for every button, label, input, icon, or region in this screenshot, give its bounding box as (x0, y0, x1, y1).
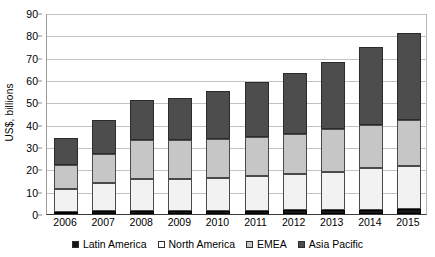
chart-legend: Latin AmericaNorth AmericaEMEAAsia Pacif… (0, 238, 435, 250)
y-tick-label-90: 90 (26, 9, 38, 20)
bar-segment-2007-emea (92, 154, 116, 183)
legend-label-asia: Asia Pacific (309, 238, 363, 250)
y-tick-mark-80 (38, 36, 42, 37)
bar-segment-2012-latin (283, 210, 307, 214)
bar-segment-2015-emea (397, 120, 421, 166)
bar-segment-2011-latin (245, 211, 269, 214)
bar-segment-2010-emea (206, 139, 230, 178)
y-tick-label-20: 20 (26, 165, 38, 176)
stacked-bar-chart: US$, billions 0102030405060708090 200620… (0, 0, 435, 257)
x-tick-label-2012: 2012 (282, 217, 305, 228)
legend-swatch-emea-icon (246, 241, 253, 248)
legend-swatch-asia-icon (298, 241, 305, 248)
bar-segment-2008-asia (130, 100, 154, 140)
bar-segment-2014-asia (359, 47, 383, 125)
y-tick-mark-10 (38, 192, 42, 193)
legend-item-latin[interactable]: Latin America (72, 238, 147, 250)
bar-segment-2007-asia (92, 120, 116, 154)
bar-segment-2012-emea (283, 134, 307, 174)
bar-segment-2008-latin (130, 211, 154, 214)
bar-group-2014 (359, 13, 383, 214)
legend-swatch-north-icon (158, 241, 165, 248)
bar-segment-2009-asia (168, 98, 192, 140)
bar-segment-2011-north (245, 176, 269, 211)
bar-group-2007 (92, 13, 116, 214)
bar-segment-2010-asia (206, 91, 230, 139)
bar-segment-2013-north (321, 172, 345, 211)
y-tick-mark-70 (38, 58, 42, 59)
legend-item-emea[interactable]: EMEA (246, 238, 287, 250)
y-tick-mark-50 (38, 103, 42, 104)
bar-group-2012 (283, 13, 307, 214)
x-tick-label-2009: 2009 (168, 217, 191, 228)
bar-segment-2006-latin (54, 212, 78, 214)
bar-segment-2012-north (283, 174, 307, 211)
y-tick-label-80: 80 (26, 31, 38, 42)
x-axis-tick-labels: 2006200720082009201020112012201320142015 (46, 217, 427, 233)
bar-segment-2013-asia (321, 62, 345, 129)
y-tick-mark-20 (38, 170, 42, 171)
x-tick-label-2008: 2008 (130, 217, 153, 228)
y-tick-label-30: 30 (26, 143, 38, 154)
bar-group-2013 (321, 13, 345, 214)
bar-segment-2009-emea (168, 140, 192, 179)
bar-segment-2009-latin (168, 211, 192, 214)
y-tick-mark-30 (38, 148, 42, 149)
legend-item-north[interactable]: North America (158, 238, 236, 250)
bar-group-2011 (245, 13, 269, 214)
legend-label-north: North America (169, 238, 236, 250)
y-tick-mark-90 (38, 14, 42, 15)
y-axis-title: US$, billions (0, 0, 18, 225)
bar-segment-2013-latin (321, 210, 345, 214)
y-tick-label-50: 50 (26, 98, 38, 109)
bar-segment-2011-asia (245, 82, 269, 137)
bar-segment-2012-asia (283, 73, 307, 133)
bar-group-2008 (130, 13, 154, 214)
plot-area (46, 14, 427, 215)
legend-item-asia[interactable]: Asia Pacific (298, 238, 363, 250)
legend-swatch-latin-icon (72, 241, 79, 248)
bar-segment-2013-emea (321, 129, 345, 171)
y-tick-mark-0 (38, 215, 42, 216)
bar-segment-2006-north (54, 189, 78, 211)
y-axis-tick-labels: 0102030405060708090 (18, 14, 42, 215)
bar-series-container (47, 15, 426, 214)
bar-segment-2014-emea (359, 125, 383, 169)
bar-segment-2006-emea (54, 165, 78, 190)
bar-segment-2010-latin (206, 211, 230, 214)
bar-segment-2014-north (359, 168, 383, 210)
x-tick-label-2006: 2006 (53, 217, 76, 228)
bar-group-2015 (397, 13, 421, 214)
bar-segment-2015-north (397, 166, 421, 209)
bar-segment-2008-emea (130, 140, 154, 179)
bar-segment-2007-latin (92, 211, 116, 214)
bar-segment-2008-north (130, 179, 154, 211)
bar-segment-2011-emea (245, 137, 269, 176)
x-tick-label-2011: 2011 (244, 217, 267, 228)
legend-label-emea: EMEA (257, 238, 287, 250)
bar-group-2006 (54, 13, 78, 214)
bar-segment-2014-latin (359, 210, 383, 214)
y-tick-label-70: 70 (26, 53, 38, 64)
legend-label-latin: Latin America (83, 238, 147, 250)
y-tick-mark-40 (38, 125, 42, 126)
bar-group-2009 (168, 13, 192, 214)
y-tick-label-10: 10 (26, 187, 38, 198)
bar-segment-2015-asia (397, 33, 421, 120)
y-tick-mark-60 (38, 81, 42, 82)
bar-segment-2006-asia (54, 138, 78, 165)
x-tick-label-2007: 2007 (91, 217, 114, 228)
bar-group-2010 (206, 13, 230, 214)
x-tick-label-2013: 2013 (320, 217, 343, 228)
bar-segment-2009-north (168, 179, 192, 211)
bar-segment-2010-north (206, 178, 230, 211)
bar-segment-2007-north (92, 183, 116, 212)
x-tick-label-2014: 2014 (358, 217, 381, 228)
y-tick-label-60: 60 (26, 76, 38, 87)
y-axis-title-text: US$, billions (4, 83, 15, 141)
x-tick-label-2010: 2010 (206, 217, 229, 228)
y-tick-label-40: 40 (26, 120, 38, 131)
x-tick-label-2015: 2015 (396, 217, 419, 228)
bar-segment-2015-latin (397, 209, 421, 214)
